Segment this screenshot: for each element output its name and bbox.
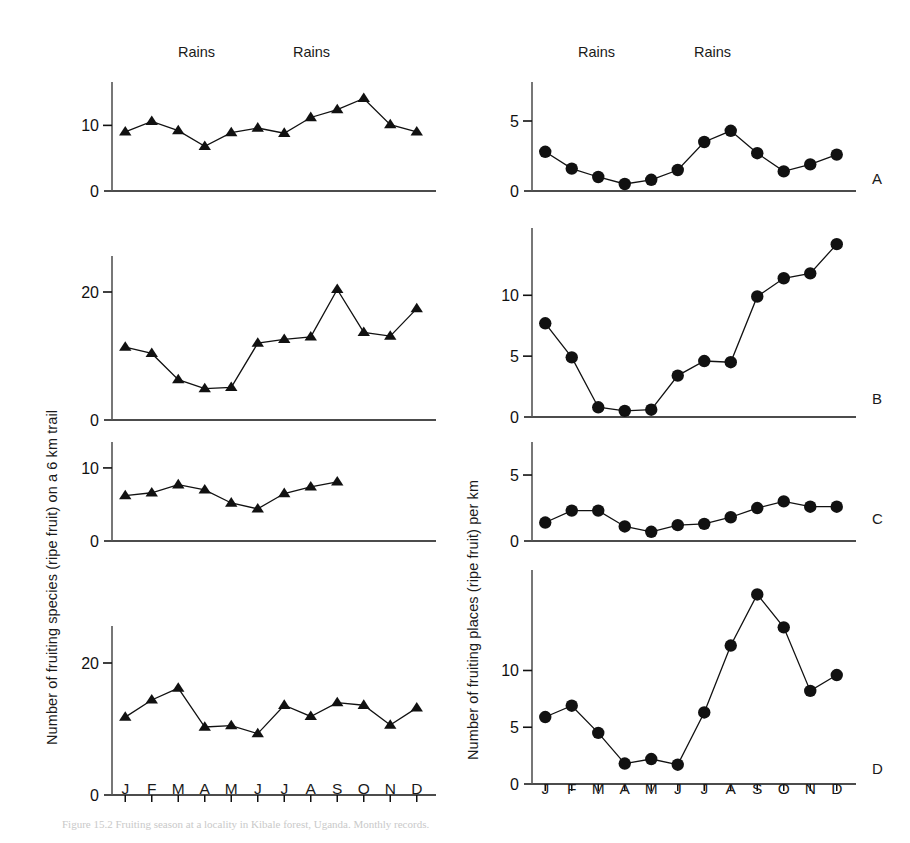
svg-text:5: 5 (510, 113, 519, 130)
svg-text:0: 0 (90, 412, 99, 429)
figure-caption: Figure 15.2 Fruiting season at a localit… (62, 818, 902, 832)
month-label-m-4: M (218, 780, 245, 798)
month-label-m-4: M (638, 780, 665, 798)
svg-text:20: 20 (81, 284, 99, 301)
month-label-m-2: M (585, 780, 612, 798)
month-label-a-3: A (612, 780, 639, 798)
month-label-f-1: F (139, 780, 166, 798)
month-label-j-0: J (112, 780, 139, 798)
month-label-j-5: J (665, 780, 692, 798)
month-label-a-7: A (718, 780, 745, 798)
month-label-f-1: F (559, 780, 586, 798)
svg-text:10: 10 (81, 117, 99, 134)
month-label-d-11: D (404, 780, 431, 798)
rains-label-right-2: Rains (694, 44, 731, 60)
panel-letter-A: A (872, 170, 882, 187)
month-label-s-8: S (744, 780, 771, 798)
rains-label-left-2: Rains (293, 44, 330, 60)
panel-letter-C: C (872, 510, 883, 527)
month-label-n-10: N (797, 780, 824, 798)
panel-right-B: 0510 (492, 218, 880, 435)
month-label-j-6: J (271, 780, 298, 798)
svg-text:0: 0 (90, 183, 99, 200)
svg-text:20: 20 (81, 655, 99, 672)
svg-text:5: 5 (510, 348, 519, 365)
month-label-n-10: N (377, 780, 404, 798)
month-label-o-9: O (351, 780, 378, 798)
rains-label-right-1: Rains (578, 44, 615, 60)
panel-right-A: 05 (492, 72, 880, 209)
svg-text:5: 5 (510, 467, 519, 484)
y-axis-label-left: Number of fruiting species (ripe fruit) … (44, 410, 60, 745)
svg-text:0: 0 (90, 533, 99, 550)
month-label-j-0: J (532, 780, 559, 798)
panel-letter-D: D (872, 760, 883, 777)
svg-text:0: 0 (510, 183, 519, 200)
panel-left-B: 020 (72, 246, 460, 438)
rains-label-left-1: Rains (178, 44, 215, 60)
month-label-j-6: J (691, 780, 718, 798)
svg-text:0: 0 (90, 787, 99, 804)
svg-text:10: 10 (501, 287, 519, 304)
month-label-o-9: O (771, 780, 798, 798)
svg-text:10: 10 (501, 662, 519, 679)
panel-right-C: 05 (492, 432, 880, 559)
month-label-d-11: D (824, 780, 851, 798)
svg-text:5: 5 (510, 719, 519, 736)
month-label-m-2: M (165, 780, 192, 798)
panel-letter-B: B (872, 390, 882, 407)
panel-left-A: 010 (72, 72, 460, 209)
panel-right-D: 0510 (492, 560, 880, 802)
x-axis-month-labels-left: JFMAMJJASOND (112, 780, 430, 798)
x-axis-month-labels-right: JFMAMJJASOND (532, 780, 850, 798)
svg-text:10: 10 (81, 460, 99, 477)
month-label-j-5: J (245, 780, 272, 798)
month-label-a-3: A (192, 780, 219, 798)
figure-fruiting-seasonality: Number of fruiting species (ripe fruit) … (0, 0, 910, 843)
svg-text:0: 0 (510, 533, 519, 550)
svg-text:0: 0 (510, 776, 519, 793)
month-label-s-8: S (324, 780, 351, 798)
month-label-a-7: A (298, 780, 325, 798)
svg-text:0: 0 (510, 409, 519, 426)
y-axis-label-right: Number of fruiting places (ripe fruit) p… (465, 480, 481, 760)
panel-left-C: 010 (72, 432, 460, 559)
